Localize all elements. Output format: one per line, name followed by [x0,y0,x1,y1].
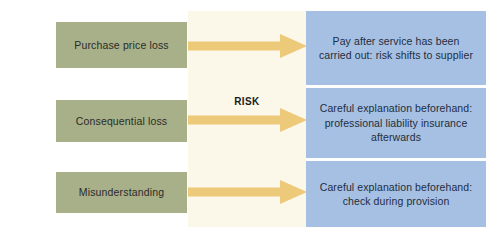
diagram-canvas: Purchase price loss Consequential loss M… [0,0,503,239]
cause-box-purchase-price-loss: Purchase price loss [56,22,187,68]
cause-box-consequential-loss: Consequential loss [56,100,187,142]
cause-label: Consequential loss [76,115,167,128]
measure-box-careful-explanation-check: Careful explanation beforehand: check du… [306,161,486,227]
cause-box-misunderstanding: Misunderstanding [56,172,187,213]
cause-label: Purchase price loss [74,39,168,52]
measure-label: Pay after service has been carried out: … [316,34,476,63]
risk-caption-label: RISK [188,96,306,107]
risk-band-background [188,11,306,227]
measure-box-careful-explanation-liability: Careful explanation beforehand: professi… [306,88,486,158]
measure-label: Careful explanation beforehand: professi… [316,101,476,145]
cause-label: Misunderstanding [79,186,164,199]
measure-label: Careful explanation beforehand: check du… [316,180,476,209]
measure-box-pay-after-service: Pay after service has been carried out: … [306,11,486,85]
